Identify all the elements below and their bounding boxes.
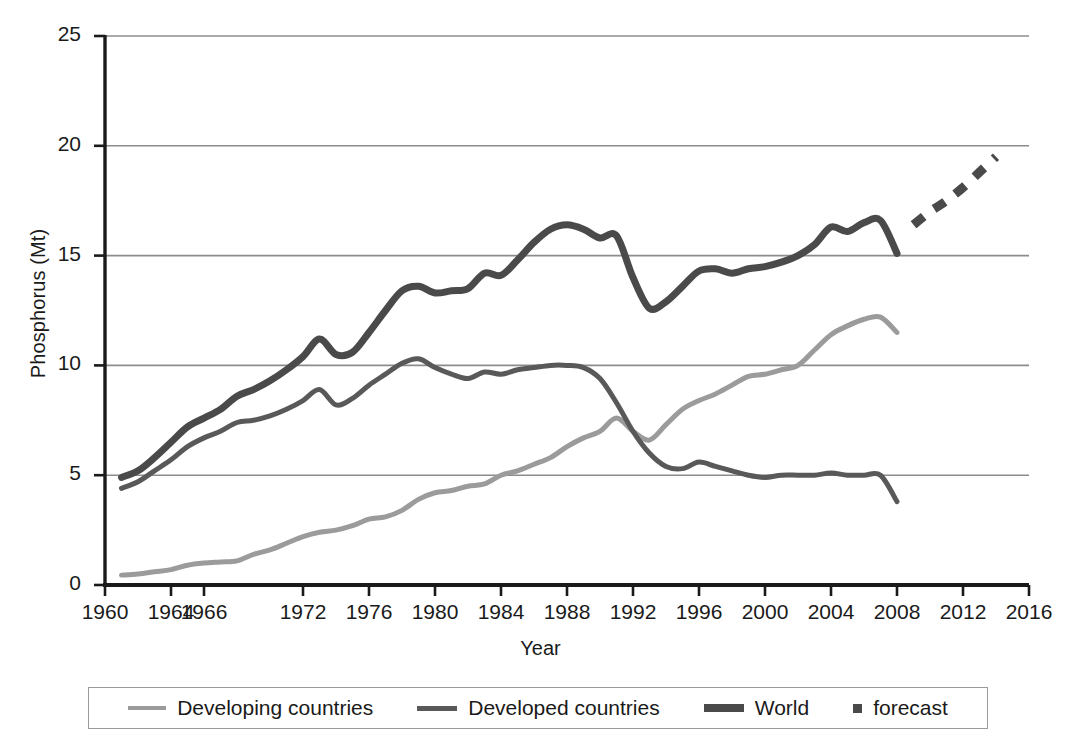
x-tick-label: 1972 [271, 600, 335, 624]
x-tick-label: 2004 [799, 600, 863, 624]
legend-item-developing[interactable]: Developing countries [128, 696, 373, 720]
legend-item-world[interactable]: World [704, 696, 809, 720]
legend-label: Developed countries [468, 696, 659, 720]
forecast-line [914, 157, 997, 225]
x-tick-label: 2016 [997, 600, 1061, 624]
y-tick-label: 20 [35, 132, 81, 156]
series-line-developed-countries [122, 359, 898, 502]
x-tick-label: 1988 [535, 600, 599, 624]
legend-label: forecast [873, 696, 948, 720]
y-tick-label: 10 [35, 351, 81, 375]
x-tick-label: 1996 [667, 600, 731, 624]
legend-swatch-developed-icon [417, 706, 457, 711]
y-tick-label: 5 [35, 461, 81, 485]
legend-item-developed[interactable]: Developed countries [417, 696, 659, 720]
x-tick-label: 1992 [601, 600, 665, 624]
x-axis-title: Year [0, 637, 1081, 660]
y-axis-title: Phosphorus (Mt) [27, 184, 50, 424]
series-line-world [122, 218, 898, 477]
chart-figure: Phosphorus (Mt) Year 0510152025 19601964… [0, 0, 1081, 749]
x-tick-label: 2012 [931, 600, 995, 624]
chart-legend: Developing countriesDeveloped countriesW… [88, 687, 988, 729]
legend-label: Developing countries [177, 696, 373, 720]
legend-swatch-forecast-icon [853, 704, 862, 713]
y-tick-label: 25 [35, 22, 81, 46]
x-tick-label: 1960 [73, 600, 137, 624]
x-tick-label: 1980 [403, 600, 467, 624]
x-tick-label: 1976 [337, 600, 401, 624]
x-tick-label: 1966 [172, 600, 236, 624]
x-tick-label: 1984 [469, 600, 533, 624]
x-tick-label: 2000 [733, 600, 797, 624]
y-tick-label: 0 [35, 571, 81, 595]
legend-swatch-world-icon [704, 704, 744, 712]
legend-swatch-developing-icon [128, 706, 166, 710]
y-tick-label: 15 [35, 242, 81, 266]
series-line-developing-countries [122, 316, 898, 575]
legend-item-forecast[interactable]: forecast [853, 696, 948, 720]
x-tick-label: 2008 [865, 600, 929, 624]
legend-label: World [755, 696, 809, 720]
